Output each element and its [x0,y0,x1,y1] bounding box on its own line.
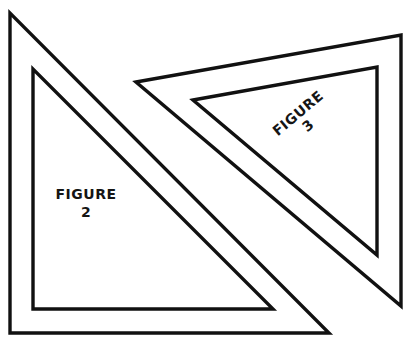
set-squares-diagram: FIGURE 2 FIGURE 3 [0,0,412,340]
figure-2-label-line1: FIGURE [56,186,117,202]
figure-2-label-line2: 2 [81,204,91,220]
figure-3-inner-triangle [193,67,377,255]
figure-3-set-square: FIGURE 3 [136,35,401,306]
figure-3-label-line1: FIGURE [269,87,326,138]
figure-3-label: FIGURE 3 [269,87,336,151]
figure-3-outer-triangle [136,35,401,306]
